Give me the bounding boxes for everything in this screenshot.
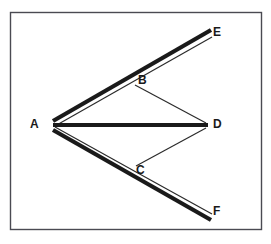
vertex-label-e: E xyxy=(213,26,221,38)
figure-canvas: ABCDEF xyxy=(0,0,271,244)
vertex-label-c: C xyxy=(136,164,145,176)
vertex-label-b: B xyxy=(138,74,147,86)
vertex-label-f: F xyxy=(213,205,220,217)
vertex-label-d: D xyxy=(213,118,222,130)
geometry-diagram xyxy=(0,0,271,244)
canvas-background xyxy=(0,0,271,244)
vertex-label-a: A xyxy=(30,118,39,130)
